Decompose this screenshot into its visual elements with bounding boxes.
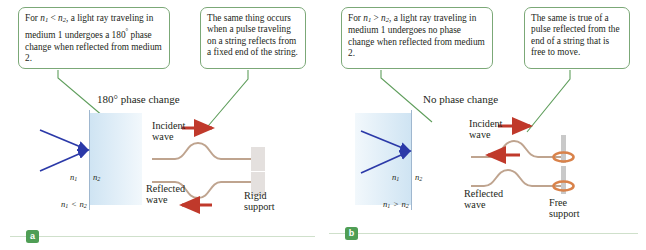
rigid-support-block-upper (251, 147, 265, 171)
support-label-b: Free support (549, 197, 580, 219)
panel-badge-b: b (345, 227, 358, 240)
reflected-wave-label-a: Reflected wave (146, 183, 185, 205)
rule-b (329, 233, 638, 234)
panel-badge-a: a (26, 230, 39, 243)
panel-a: For n1 < n2, a light ray traveling in me… (0, 0, 323, 250)
panel-b: For n1 > n2, a light ray traveling in me… (323, 0, 646, 250)
reflected-wave-label-b: Reflected wave (464, 188, 503, 210)
figure-reflection-phase-change: For n1 < n2, a light ray traveling in me… (0, 0, 646, 250)
incident-wave-label-b: Incident wave (469, 118, 502, 140)
free-support-rod-upper (561, 135, 566, 163)
rule-a (10, 236, 315, 237)
incident-wave-label-a: Incident wave (152, 120, 185, 142)
incident-string-a (152, 143, 252, 159)
support-label-a: Rigid support (244, 190, 275, 212)
reflected-string-b (471, 170, 564, 186)
